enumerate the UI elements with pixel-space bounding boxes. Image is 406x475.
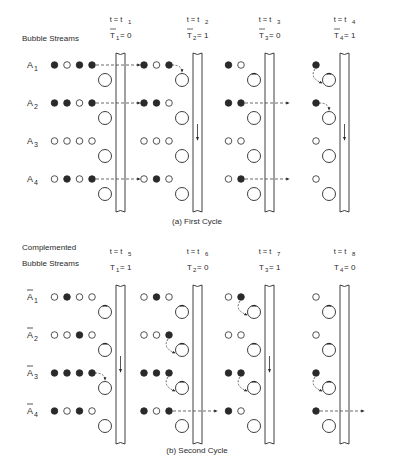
bubble-row bbox=[225, 176, 289, 201]
row-label-4: A4 bbox=[27, 404, 38, 418]
time-subscript: 6 bbox=[205, 251, 209, 257]
row-label-letter: A bbox=[27, 174, 33, 184]
column-1: t = t5T1= 1 bbox=[51, 247, 132, 444]
storage-hole bbox=[176, 344, 189, 357]
control-name: T bbox=[259, 263, 264, 272]
bubble-filled bbox=[89, 100, 96, 107]
column-2: t = t2T2= 1 bbox=[141, 15, 209, 212]
hole-bubble-cap bbox=[251, 381, 257, 383]
bubble-empty bbox=[89, 138, 96, 145]
bubble-filled bbox=[51, 100, 58, 107]
bubble-empty bbox=[51, 176, 58, 183]
storage-hole bbox=[176, 150, 189, 163]
time-subscript: 3 bbox=[277, 19, 281, 25]
bubble-row bbox=[141, 176, 189, 201]
bubble-filled bbox=[89, 370, 96, 377]
bubble-empty bbox=[141, 176, 148, 183]
hole-bubble-cap bbox=[179, 305, 185, 307]
bubble-empty bbox=[76, 138, 83, 145]
storage-hole bbox=[176, 112, 189, 125]
bubble-empty bbox=[313, 332, 320, 339]
storage-hole bbox=[248, 420, 261, 433]
row-label-letter: A bbox=[27, 136, 33, 146]
storage-hole bbox=[323, 382, 336, 395]
storage-hole bbox=[176, 306, 189, 319]
panel-caption: (a) First Cycle bbox=[172, 217, 222, 226]
bubble-empty bbox=[238, 138, 245, 145]
bubble-row bbox=[51, 62, 140, 87]
bubble-row bbox=[313, 100, 336, 125]
bubble-row bbox=[141, 62, 189, 87]
bubble-empty bbox=[141, 332, 148, 339]
storage-hole bbox=[323, 306, 336, 319]
time-subscript: 7 bbox=[277, 251, 281, 257]
hole-bubble-cap bbox=[326, 73, 332, 75]
bubble-empty bbox=[225, 332, 232, 339]
hole-bubble-cap bbox=[326, 343, 332, 345]
storage-hole bbox=[176, 420, 189, 433]
bubble-empty bbox=[225, 176, 232, 183]
bubble-filled bbox=[141, 408, 148, 415]
bubble-filled bbox=[153, 294, 160, 301]
bubble-empty bbox=[153, 332, 160, 339]
time-text: t = t bbox=[334, 15, 348, 24]
storage-hole bbox=[176, 74, 189, 87]
bubble-row bbox=[51, 294, 111, 319]
storage-hole bbox=[248, 150, 261, 163]
bubble-empty bbox=[166, 138, 173, 145]
control-value: = 0 bbox=[197, 263, 209, 272]
storage-hole bbox=[176, 188, 189, 201]
curve-arrow-icon bbox=[313, 69, 322, 83]
bubble-filled bbox=[51, 370, 58, 377]
bubble-filled bbox=[225, 100, 232, 107]
bubble-filled bbox=[64, 176, 71, 183]
bubble-row bbox=[225, 138, 260, 163]
bubble-filled bbox=[51, 62, 58, 69]
row-label-letter: A bbox=[27, 60, 33, 70]
panel-b: ComplementedBubble StreamsA1A2A3A4t = t5… bbox=[22, 243, 364, 455]
bubble-empty bbox=[166, 294, 173, 301]
bubble-empty bbox=[313, 176, 320, 183]
row-header-label-2: Bubble Streams bbox=[22, 259, 79, 268]
bubble-row bbox=[313, 138, 336, 163]
bubble-row bbox=[225, 62, 260, 87]
hole-bubble-cap bbox=[179, 343, 185, 345]
bubble-filled bbox=[89, 176, 96, 183]
bubble-empty bbox=[51, 332, 58, 339]
curve-arrow-icon bbox=[166, 377, 175, 391]
control-value: = 0 bbox=[120, 31, 132, 40]
storage-hole bbox=[323, 420, 336, 433]
time-text: t = t bbox=[110, 15, 124, 24]
bubble-empty bbox=[153, 138, 160, 145]
bubble-filled bbox=[64, 370, 71, 377]
bubble-empty bbox=[64, 408, 71, 415]
curve-arrow-icon bbox=[166, 339, 175, 353]
control-name: T bbox=[110, 263, 115, 272]
bubble-empty bbox=[141, 294, 148, 301]
bubble-empty bbox=[166, 176, 173, 183]
row-label-letter: A bbox=[27, 368, 33, 378]
curve-arrow-icon bbox=[313, 377, 322, 391]
time-label: t = t6 bbox=[187, 247, 209, 257]
bubble-row bbox=[51, 176, 140, 201]
bubble-row bbox=[225, 408, 260, 433]
bubble-filled bbox=[313, 100, 320, 107]
row-label-letter: A bbox=[27, 98, 33, 108]
bubble-row bbox=[225, 370, 260, 395]
bubble-row bbox=[313, 370, 336, 395]
time-label: t = t4 bbox=[334, 15, 356, 25]
bubble-filled bbox=[238, 100, 245, 107]
control-label: T3= 1 bbox=[259, 263, 281, 273]
control-name: T bbox=[259, 31, 264, 40]
hole-bubble-cap bbox=[326, 305, 332, 307]
panel-a: Bubble StreamsA1A2A3A4t = t1T1= 0t = t2T… bbox=[22, 15, 356, 226]
storage-hole bbox=[323, 112, 336, 125]
bubble-empty bbox=[89, 294, 96, 301]
time-label: t = t8 bbox=[334, 247, 356, 257]
bubble-row bbox=[141, 100, 189, 125]
drop-arrow-icon bbox=[172, 65, 182, 72]
bubble-empty bbox=[51, 294, 58, 301]
drop-arrow-icon bbox=[319, 103, 329, 110]
time-text: t = t bbox=[259, 15, 273, 24]
time-subscript: 5 bbox=[128, 251, 132, 257]
